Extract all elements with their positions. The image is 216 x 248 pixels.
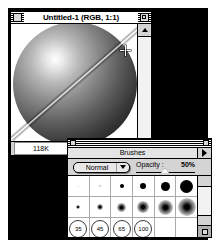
blend-mode-value: Normal	[74, 163, 116, 172]
soft-round-brush-icon	[117, 203, 126, 212]
palette-resize-grip-icon[interactable]	[198, 226, 211, 237]
blend-mode-select[interactable]: Normal	[73, 162, 130, 173]
sphere-artwork	[13, 24, 137, 142]
brushes-palette[interactable]: Brushes Normal Opacity : 50% 354565	[67, 138, 212, 238]
large-brush-row: 354565100	[68, 218, 197, 237]
brush-cell	[155, 218, 177, 237]
palette-close-box-icon[interactable]	[70, 140, 76, 146]
brush-cell[interactable]	[68, 176, 90, 196]
brush-cell[interactable]	[90, 176, 112, 196]
large-brush-size-icon: 100	[134, 220, 152, 238]
brush-cell[interactable]	[68, 197, 90, 217]
brush-cell	[176, 218, 197, 237]
brush-cell[interactable]: 65	[111, 218, 133, 237]
brush-cell[interactable]: 45	[90, 218, 112, 237]
hard-round-brush-icon	[161, 182, 170, 191]
scroll-up-arrow-icon[interactable]	[198, 176, 211, 187]
hard-round-brush-icon	[180, 180, 193, 193]
hard-round-brush-icon	[120, 184, 124, 188]
palette-zoom-box-icon[interactable]	[203, 140, 209, 146]
brush-cell[interactable]	[133, 176, 155, 196]
soft-round-brush-icon	[97, 204, 103, 210]
scroll-up-arrow-icon[interactable]	[138, 24, 151, 37]
brush-cell[interactable]	[176, 176, 197, 196]
soft-round-row	[68, 197, 197, 218]
scrollbar-track[interactable]	[138, 37, 151, 142]
soft-round-brush-icon	[158, 200, 173, 215]
palette-menu-triangle-icon[interactable]	[198, 148, 211, 158]
opacity-control[interactable]: Opacity : 50%	[136, 159, 195, 175]
palette-vertical-scrollbar[interactable]	[197, 175, 211, 237]
document-title-bar[interactable]: Untitled-1 (RGB, 1:1)	[11, 11, 151, 24]
brush-cell[interactable]	[90, 197, 112, 217]
hard-round-brush-icon	[140, 183, 146, 189]
document-window[interactable]: Untitled-1 (RGB, 1:1) 118K	[10, 10, 152, 156]
opacity-value: 50%	[181, 160, 195, 169]
soft-round-brush-icon	[76, 205, 80, 209]
sphere-streak-highlight	[11, 28, 139, 140]
document-vertical-scrollbar[interactable]	[137, 24, 151, 142]
screen: Untitled-1 (RGB, 1:1) 118K	[0, 0, 216, 248]
canvas-area[interactable]	[11, 24, 139, 142]
file-size-indicator: 118K	[14, 142, 68, 155]
brush-grid[interactable]: 354565100	[68, 175, 197, 237]
large-brush-size-icon: 45	[91, 220, 109, 238]
tiny-brush-icon	[99, 185, 101, 187]
soft-round-brush-icon	[137, 201, 149, 213]
opacity-slider-thumb[interactable]	[161, 168, 169, 173]
large-brush-size-icon: 35	[69, 220, 87, 238]
hard-round-row	[68, 176, 197, 197]
brush-cell[interactable]	[176, 197, 197, 217]
brush-cell[interactable]	[111, 176, 133, 196]
opacity-label: Opacity :	[136, 160, 164, 169]
palette-title-bar[interactable]	[68, 139, 211, 148]
palette-tab-row: Brushes	[68, 148, 211, 159]
brush-cell[interactable]	[155, 176, 177, 196]
document-title: Untitled-1 (RGB, 1:1)	[24, 12, 138, 23]
sphere-streak-shadow	[11, 26, 139, 142]
tiny-brush-icon	[78, 186, 79, 187]
brush-cell[interactable]	[111, 197, 133, 217]
palette-scrollbar-track[interactable]	[198, 187, 211, 215]
brush-cell[interactable]	[155, 197, 177, 217]
soft-round-brush-icon	[178, 198, 196, 216]
brush-cell[interactable]: 35	[68, 218, 90, 237]
large-brush-size-icon: 65	[113, 220, 131, 238]
tab-brushes[interactable]: Brushes	[68, 148, 198, 158]
brush-cell[interactable]: 100	[133, 218, 155, 237]
chevron-down-icon[interactable]	[116, 163, 129, 172]
zoom-box-icon[interactable]	[140, 13, 149, 22]
brush-cell[interactable]	[133, 197, 155, 217]
close-box-icon[interactable]	[13, 13, 22, 22]
scroll-down-arrow-icon[interactable]	[198, 215, 211, 226]
palette-controls-row: Normal Opacity : 50%	[68, 159, 211, 175]
